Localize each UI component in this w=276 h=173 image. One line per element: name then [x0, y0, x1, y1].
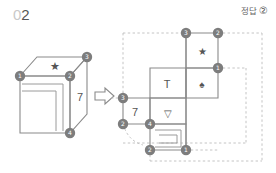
screenshot-root: 02 정답② .ln{fill:none;stroke:#8a8a8a;stro…: [0, 0, 276, 173]
net-vertex-2-top-label: 2: [216, 29, 220, 36]
net-vertex-1-right-label: 1: [216, 64, 220, 71]
net-figure: ★ ♠ T 7 ▽ 3 2 1 3 2: [111, 28, 262, 161]
net-vertex-3-top-label: 3: [184, 29, 188, 36]
transform-arrow: [95, 88, 114, 104]
cube-top-star-icon: ★: [50, 60, 60, 72]
net-vertex-1-bottom-label: 1: [184, 146, 188, 153]
cube-front-nested-squares: [22, 84, 63, 131]
net-triangle-down-icon: ▽: [164, 108, 172, 119]
net-vertex-2-left-label: 2: [121, 120, 125, 127]
cube-right-seven-label: 7: [77, 91, 83, 103]
cube-vertex-1-label: 1: [18, 72, 22, 79]
figure-canvas: .ln{fill:none;stroke:#8a8a8a;stroke-widt…: [0, 0, 276, 173]
net-vertex-3-left-label: 3: [121, 94, 125, 101]
cube-vertex-4-label: 4: [68, 129, 72, 136]
net-tee-label: T: [164, 78, 171, 90]
net-vertex-2-bottom-label: 2: [148, 146, 152, 153]
net-spade-icon: ♠: [199, 79, 205, 90]
net-star-icon: ★: [198, 46, 207, 57]
cube-vertex-2-label: 2: [68, 72, 72, 79]
net-nested-squares-icon: [155, 130, 181, 147]
net-seven-label: 7: [132, 106, 138, 118]
net-vertex-markers: 3 2 1 3 2 4 2 1: [118, 28, 223, 155]
cube-vertex-3-label: 3: [85, 53, 89, 60]
cube-figure: ★ 7 1 2 3 4: [15, 52, 92, 138]
net-vertex-4-label: 4: [148, 120, 152, 127]
